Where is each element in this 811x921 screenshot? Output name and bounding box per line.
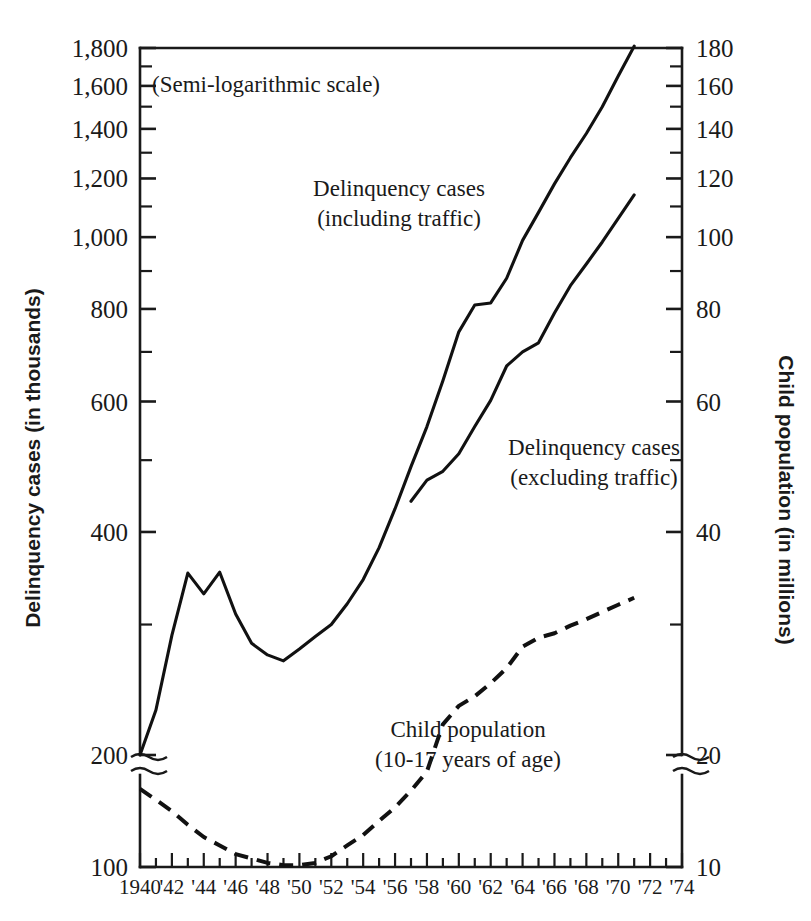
series-line [140, 46, 634, 755]
chart-figure: 1,8001,6001,4001,2001,000800600400200100… [0, 0, 811, 921]
left-tick-label: 200 [91, 742, 129, 769]
left-tick-label: 1,600 [72, 73, 128, 100]
left-axis-break-symbol [131, 754, 167, 774]
x-tick-label: '62 [478, 875, 503, 899]
left-tick-label: 1,800 [72, 35, 128, 62]
right-axis-title: Child population (in millions) [775, 355, 798, 644]
x-tick-label: '46 [223, 875, 248, 899]
x-tick-label: '58 [415, 875, 440, 899]
left-tick-label: 800 [91, 296, 129, 323]
right-tick-label: 80 [696, 296, 721, 323]
semi-log-scale-note: (Semi-logarithmic scale) [152, 72, 380, 97]
annotation-layer: Delinquency cases(including traffic)Deli… [313, 176, 680, 772]
delinquency-excluding-traffic-label: Delinquency cases(excluding traffic) [508, 435, 680, 490]
left-tick-label: 1,200 [72, 165, 128, 192]
annotation-line: (excluding traffic) [510, 465, 678, 490]
x-tick-label: '52 [319, 875, 344, 899]
delinquency-including-traffic-label: Delinquency cases(including traffic) [313, 176, 485, 231]
x-tick-label: '50 [287, 875, 312, 899]
x-tick-label: '56 [383, 875, 408, 899]
right-tick-label: 180 [696, 35, 734, 62]
right-tick-label: 160 [696, 73, 734, 100]
series-line [140, 598, 634, 865]
child-population-label: Child population(10-17 years of age) [375, 717, 561, 772]
x-tick-label: '44 [191, 875, 216, 899]
x-tick-label: '54 [351, 875, 376, 899]
right-tick-label: 100 [696, 224, 734, 251]
x-tick-label: '72 [638, 875, 663, 899]
x-tick-label: '42 [159, 875, 184, 899]
x-tick-label: '64 [510, 875, 535, 899]
x-axis-tick-labels: 1940'42'44'46'48'50'52'54'56'58'60'62'64… [119, 875, 695, 899]
annotation-line: Delinquency cases [508, 435, 680, 460]
x-axis-ticks [140, 853, 682, 867]
delinquency-child-population-line-chart: 1,8001,6001,4001,2001,000800600400200100… [0, 0, 811, 921]
right-tick-label: 10 [696, 854, 721, 881]
x-tick-label: '66 [542, 875, 567, 899]
left-tick-label: 1,000 [72, 224, 128, 251]
left-axis-title: Delinquency cases (in thousands) [21, 288, 44, 628]
right-tick-label: 20 [696, 742, 721, 769]
right-tick-label: 140 [696, 116, 734, 143]
x-tick-label: '70 [606, 875, 631, 899]
x-tick-label: '48 [255, 875, 280, 899]
right-tick-label: 40 [696, 519, 721, 546]
x-tick-label: '60 [446, 875, 471, 899]
right-tick-label: 120 [696, 165, 734, 192]
left-tick-label: 600 [91, 389, 129, 416]
left-tick-label: 1,400 [72, 116, 128, 143]
annotation-line: (10-17 years of age) [375, 747, 561, 772]
x-tick-label: '68 [574, 875, 599, 899]
left-axis-tick-labels: 1,8001,6001,4001,2001,000800600400200100 [72, 35, 128, 881]
annotation-line: (including traffic) [317, 206, 481, 231]
right-tick-label: 60 [696, 389, 721, 416]
x-tick-label: 1940 [119, 875, 161, 899]
annotation-line: Delinquency cases [313, 176, 485, 201]
right-axis-tick-labels: 1801601401201008060402010 [696, 35, 734, 881]
annotation-line: Child population [390, 717, 546, 742]
left-tick-label: 400 [91, 519, 129, 546]
x-tick-label: '74 [670, 875, 695, 899]
